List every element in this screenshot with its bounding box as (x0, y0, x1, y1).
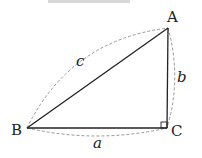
side-label-a: a (93, 134, 102, 152)
side-label-c: c (76, 52, 85, 70)
vertex-label-b: B (11, 121, 22, 139)
vertex-label-a: A (166, 8, 178, 26)
right-angle-marker (161, 122, 167, 128)
side-label-b: b (177, 68, 187, 86)
vertex-label-c: C (171, 122, 182, 140)
triangle-diagram: A B C a b c (0, 0, 202, 158)
side-c-line (27, 28, 168, 128)
side-b-line (167, 28, 168, 128)
